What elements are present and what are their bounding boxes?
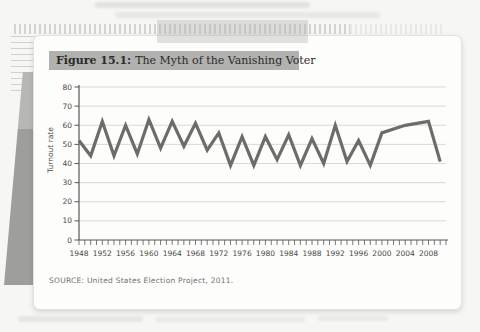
source-note: SOURCE: United States Election Project, …	[49, 276, 234, 285]
ghost-text-smudge	[155, 317, 305, 322]
figure-card: Figure 15.1:The Myth of the Vanishing Vo…	[33, 35, 462, 310]
ghost-text-smudge	[18, 316, 143, 322]
ghost-text-smudge	[115, 12, 380, 18]
perforated-strip-faint	[350, 24, 445, 34]
figure-number-label: Figure 15.1:	[56, 54, 131, 67]
scanned-page: Figure 15.1:The Myth of the Vanishing Vo…	[0, 0, 480, 332]
figure-title: The Myth of the Vanishing Voter	[135, 54, 315, 67]
tape-patch	[157, 20, 308, 43]
ghost-text-smudge	[318, 316, 388, 321]
ghost-text-smudge	[95, 2, 310, 8]
figure-title-bar: Figure 15.1:The Myth of the Vanishing Vo…	[49, 51, 299, 70]
